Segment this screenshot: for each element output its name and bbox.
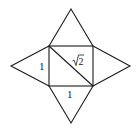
label-left-side: 1 — [39, 60, 45, 72]
label-diagonal: 2 — [79, 56, 84, 67]
square-diagonal — [49, 46, 93, 86]
triangle-right — [93, 46, 130, 86]
pyramid-net-diagram: 1 1 2 — [0, 0, 137, 131]
triangle-top — [49, 9, 93, 46]
label-bottom-side: 1 — [67, 88, 73, 100]
